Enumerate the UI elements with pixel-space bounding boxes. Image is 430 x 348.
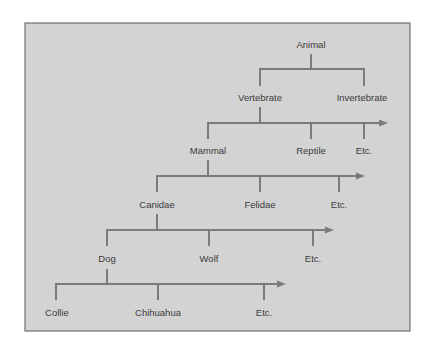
node-canidae: Canidae	[139, 199, 174, 210]
node-vertebrate: Vertebrate	[238, 92, 282, 103]
node-invertebrate: Invertebrate	[337, 92, 388, 103]
classification-diagram: Animal Vertebrate Invertebrate Mammal Re…	[0, 0, 430, 348]
node-mammal: Mammal	[190, 145, 226, 156]
node-reptile: Reptile	[296, 145, 326, 156]
node-etc-canidae: Etc.	[305, 253, 321, 264]
node-felidae: Felidae	[244, 199, 275, 210]
node-chihuahua: Chihuahua	[135, 307, 182, 318]
node-collie: Collie	[45, 307, 69, 318]
node-etc-dog: Etc.	[256, 307, 272, 318]
node-wolf: Wolf	[200, 253, 219, 264]
node-dog: Dog	[98, 253, 115, 264]
node-etc-mammal: Etc.	[331, 199, 347, 210]
node-etc-vertebrate: Etc.	[356, 145, 372, 156]
node-animal: Animal	[296, 39, 325, 50]
